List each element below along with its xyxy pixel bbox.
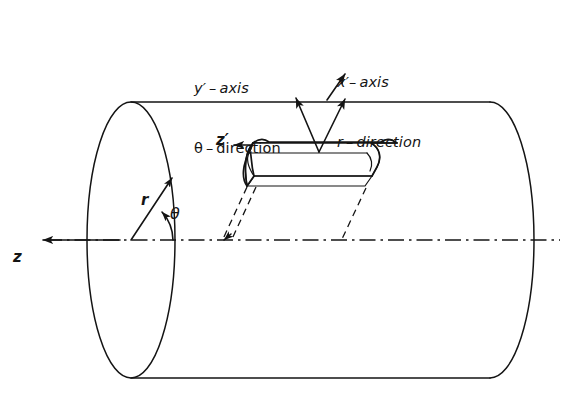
- label-x-prime-block: x′– axis r – direction: [337, 32, 421, 192]
- label-radius: r: [141, 190, 149, 211]
- diagram-canvas: [0, 0, 568, 402]
- projection-line-right: [342, 188, 366, 239]
- label-z-axis: z: [13, 247, 22, 268]
- label-theta-direction: θ – direction: [194, 138, 281, 158]
- figure-root: y′ – axis θ – direction x′– axis r – dir…: [0, 0, 568, 402]
- label-z-prime-axis: z′: [216, 130, 229, 151]
- label-r-direction: r – direction: [337, 132, 421, 152]
- polar-coordinates-group: [131, 178, 173, 240]
- label-y-prime-axis: y′ – axis: [194, 78, 281, 98]
- label-y-prime-block: y′ – axis θ – direction: [194, 38, 281, 198]
- label-x-prime-axis: x′– axis: [337, 72, 421, 92]
- r-vector-arrow: [131, 178, 172, 240]
- label-theta-angle: θ: [170, 203, 180, 225]
